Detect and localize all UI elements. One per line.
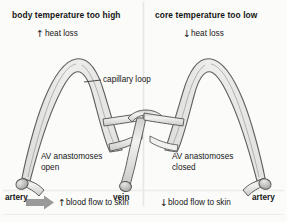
- right-artery-label: artery: [252, 193, 275, 202]
- vein-trunk: [121, 118, 146, 186]
- left-blood-flow-arrow-icon: ↑: [58, 197, 66, 208]
- left-artery-label: artery: [5, 193, 28, 202]
- bulk-blood-flow-arrow: [26, 196, 54, 210]
- right-heat-loss-label: heat loss: [191, 29, 224, 38]
- right-blood-flow-arrow-icon: ↓: [160, 197, 168, 208]
- left-panel-title: body temperature too high: [12, 10, 121, 20]
- right-heat-loss-arrow-icon: ↓: [183, 28, 191, 39]
- right-av-anastomoses-label: AV anastomoses closed: [172, 152, 233, 173]
- capillary-loop-label: capillary loop: [103, 75, 151, 84]
- left-heat-loss-label: heat loss: [45, 29, 78, 38]
- thermoregulation-figure: body temperature too high ↑ heat loss ca…: [0, 0, 287, 222]
- left-heat-loss-arrow-icon: ↑: [36, 28, 44, 39]
- right-vessel-group: [144, 59, 273, 196]
- right-blood-flow-label: blood flow to skin: [168, 198, 231, 207]
- right-panel-title: core temperature too low: [155, 10, 257, 20]
- vein-label: vein: [113, 193, 129, 202]
- left-av-anastomoses-label: AV anastomoses open: [41, 152, 102, 173]
